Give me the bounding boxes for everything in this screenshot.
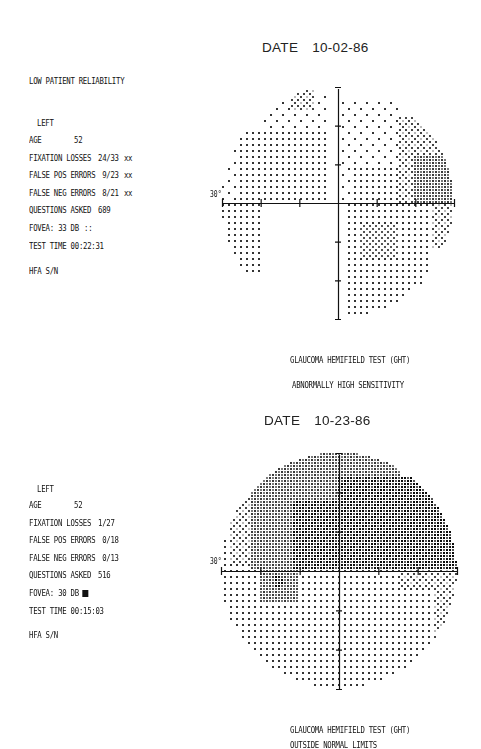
visual-field-plot [0,0,481,749]
test-panel-2: DATE10-23-86 LEFT AGE52FIXATION LOSSES1/… [0,0,481,749]
ght-result: OUTSIDE NORMAL LIMITS [290,740,377,749]
axis-label-30-degrees: 30° [210,557,222,566]
ght-title: GLAUCOMA HEMIFIELD TEST (GHT) [290,725,410,735]
